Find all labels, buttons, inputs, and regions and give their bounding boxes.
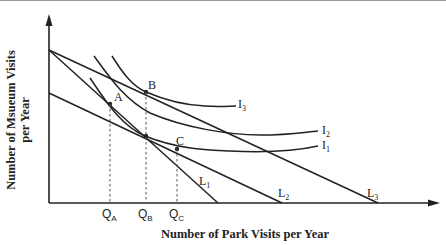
x-axis-arrow-icon: [428, 200, 440, 207]
qc-base: Q: [169, 207, 178, 221]
i2-label: I2: [322, 123, 330, 139]
i1-sub: 1: [326, 145, 330, 154]
l1-sub: 1: [206, 181, 210, 190]
point-a-label: A: [114, 90, 123, 105]
y-axis-arrow-icon: [46, 14, 53, 26]
diagram-canvas: [0, 0, 446, 245]
l2-sub: 2: [285, 193, 289, 202]
x-axis-label: Number of Park Visits per Year: [130, 227, 360, 242]
i1-label: I1: [322, 138, 330, 154]
y-axis-label: Number of Msueum Visits per Year: [4, 40, 32, 200]
qa-base: Q: [102, 207, 111, 221]
l3-sub: 3: [374, 193, 378, 202]
indifference-curve-i1: [90, 78, 318, 152]
qb-label: QB: [138, 207, 153, 223]
point-b-label: B: [148, 78, 156, 93]
qb-base: Q: [138, 207, 147, 221]
i3-label: I3: [238, 97, 246, 113]
qc-label: QC: [169, 207, 184, 223]
l1-label: L1: [199, 174, 210, 190]
l3-label: L3: [367, 186, 378, 202]
qb-sub: B: [147, 214, 152, 223]
i3-sub: 3: [242, 104, 246, 113]
i2-sub: 2: [326, 130, 330, 139]
qa-label: QA: [102, 207, 117, 223]
budget-line-l2: [49, 93, 282, 203]
point-c-label: C: [176, 134, 184, 149]
qc-sub: C: [178, 214, 184, 223]
qa-sub: A: [111, 214, 116, 223]
l2-label: L2: [278, 186, 289, 202]
